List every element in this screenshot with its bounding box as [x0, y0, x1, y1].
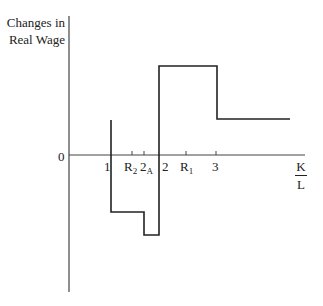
- x-label-numerator: K: [295, 160, 307, 173]
- fraction-bar: [295, 175, 307, 176]
- chart-canvas: [0, 0, 323, 306]
- real-wage-step-line: [111, 66, 290, 235]
- tick-label-2A: 2A: [140, 160, 153, 178]
- tick-label-2: 2: [162, 160, 169, 173]
- x-axis-label-KL: K L: [295, 160, 307, 191]
- tick-label-3: 3: [212, 160, 219, 173]
- origin-zero-label: 0: [58, 150, 65, 163]
- tick-label-R2: R2: [124, 160, 137, 178]
- x-label-denominator: L: [295, 178, 307, 191]
- tick-label-R1: R1: [180, 160, 193, 178]
- tick-label-1: 1: [104, 160, 111, 173]
